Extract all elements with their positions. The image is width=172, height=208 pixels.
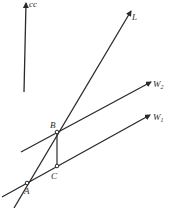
line-W1-label: W1 [153,112,164,123]
point-A-label: A [23,186,30,196]
point-B-label: B [50,120,56,130]
line-W1 [2,115,150,197]
line-W2 [21,82,151,152]
point-C [55,164,59,168]
diagram-canvas: cc L W2 W1 A B C [0,0,172,208]
point-A [25,181,29,185]
line-L [14,11,131,208]
cc-vector-arrow [24,3,26,92]
point-B [55,130,59,134]
point-C-label: C [51,171,58,181]
cc-label: cc [29,0,37,9]
line-W2-label: W2 [153,79,164,90]
line-L-label: L [131,12,137,22]
